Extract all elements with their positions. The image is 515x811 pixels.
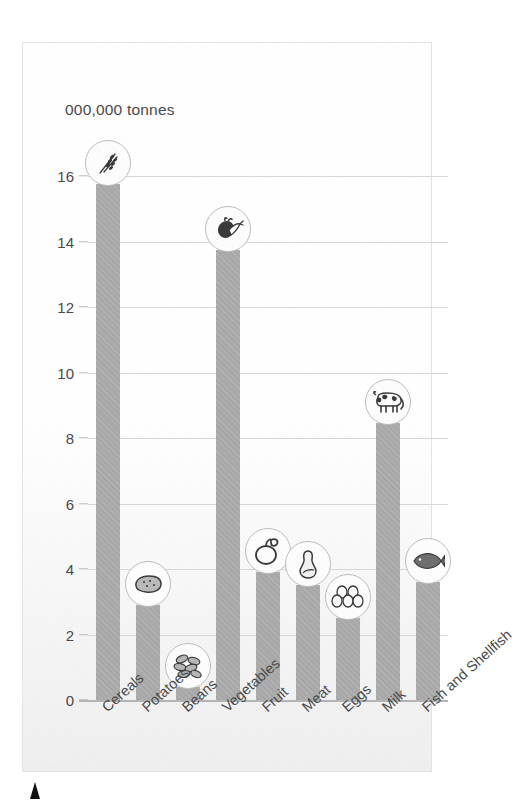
wheat-icon: [85, 140, 131, 186]
eggs-icon: [325, 574, 371, 620]
fruit-icon: [245, 528, 291, 574]
potato-icon: [125, 561, 171, 607]
y-axis-tick-label: 12: [48, 299, 74, 316]
y-axis-tick-label: 4: [48, 561, 74, 578]
y-axis-tick: [79, 634, 88, 635]
y-axis-tick: [79, 568, 88, 569]
root-vegetable-icon: [205, 206, 251, 252]
meat-joint-icon: [285, 541, 331, 587]
y-axis-tick-label: 10: [48, 364, 74, 381]
chart-container: 000,000 tonnes 0246810121416: [22, 42, 432, 772]
y-axis-tick-label: 16: [48, 168, 74, 185]
cow-icon: [365, 379, 411, 425]
y-axis-tick: [79, 306, 88, 307]
bar: [96, 184, 120, 700]
y-axis-tick-label: 0: [48, 692, 74, 709]
axis-unit-caption: 000,000 tonnes: [65, 101, 175, 119]
bar: [416, 582, 440, 700]
y-axis: 0246810121416: [23, 176, 88, 701]
gridline: [88, 373, 448, 374]
gridline: [88, 242, 448, 243]
bar: [216, 250, 240, 700]
fish-icon: [405, 538, 451, 584]
bar: [296, 585, 320, 700]
y-axis-tick: [79, 175, 88, 176]
y-axis-tick-label: 2: [48, 626, 74, 643]
y-axis-tick-label: 8: [48, 430, 74, 447]
black-triangle-marker: [30, 782, 40, 799]
y-axis-tick-label: 6: [48, 495, 74, 512]
bar: [376, 423, 400, 700]
gridline: [88, 176, 448, 177]
y-axis-tick: [79, 241, 88, 242]
gridline: [88, 307, 448, 308]
y-axis-tick: [79, 437, 88, 438]
y-axis-tick-label: 14: [48, 233, 74, 250]
y-axis-tick: [79, 503, 88, 504]
y-axis-tick: [79, 372, 88, 373]
plot-area: [88, 176, 448, 700]
